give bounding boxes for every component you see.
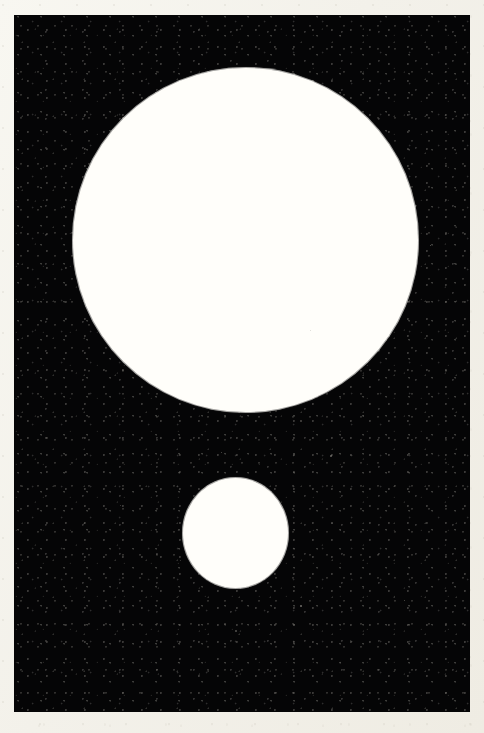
dust-speck — [300, 420, 302, 422]
dust-speck — [430, 245, 431, 246]
photographic-plate: two bright circular discs on a black fie… — [0, 0, 484, 733]
dust-speck — [404, 600, 405, 601]
dust-speck — [350, 640, 351, 641]
dust-speck — [120, 505, 121, 506]
large-disc — [73, 68, 418, 412]
black-sky-field — [14, 15, 470, 712]
dust-speck — [300, 605, 302, 607]
small-disc — [183, 478, 288, 588]
dust-speck — [330, 455, 332, 457]
dust-speck — [235, 630, 237, 632]
dust-speck — [180, 560, 181, 561]
dust-speck — [221, 452, 222, 453]
